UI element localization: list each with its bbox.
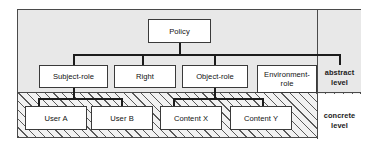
edge-policy-to-environment-role: [339, 54, 341, 65]
abstract-level-label: abstract level: [318, 68, 361, 87]
node-user-b[interactable]: User B: [91, 106, 153, 130]
edge-policy-to-right: [142, 54, 144, 65]
concrete-level-label-line1: concrete: [324, 111, 356, 120]
diagram-frame: abstract level concrete level Policy Sub…: [17, 9, 361, 138]
edge-policy-to-subject-role: [73, 54, 75, 65]
node-content-y-label: Content Y: [231, 114, 291, 123]
node-user-a-label: User A: [26, 114, 86, 123]
node-user-a[interactable]: User A: [25, 106, 87, 130]
node-right[interactable]: Right: [114, 65, 176, 88]
edge-policy-to-object-role: [214, 54, 216, 65]
node-subject-role-label: Subject-role: [40, 72, 107, 81]
abstract-level-label-line1: abstract: [325, 68, 355, 77]
node-content-x[interactable]: Content X: [160, 106, 222, 130]
node-right-label: Right: [115, 72, 175, 81]
edge-subject-role-to-user-b: [121, 98, 123, 106]
edge-subject-role-bus: [38, 98, 122, 100]
node-user-b-label: User B: [92, 114, 152, 123]
node-environment-role-label-line1: Environment-: [258, 70, 316, 79]
node-object-role-label: Object-role: [183, 72, 247, 81]
policy-hierarchy-diagram: abstract level concrete level Policy Sub…: [0, 0, 380, 148]
edge-object-role-to-content-x: [173, 98, 175, 106]
edge-subject-role-to-user-a: [38, 98, 40, 106]
abstract-level-label-line2: level: [331, 78, 348, 87]
concrete-level-label: concrete level: [318, 111, 361, 130]
node-subject-role[interactable]: Subject-role: [39, 65, 108, 88]
node-environment-role-label: Environment- role: [258, 70, 316, 88]
edge-object-role-to-content-y: [262, 98, 264, 106]
node-environment-role[interactable]: Environment- role: [257, 65, 317, 93]
node-object-role[interactable]: Object-role: [182, 65, 248, 88]
concrete-level-label-line2: level: [331, 121, 348, 130]
edge-policy-bus: [73, 54, 341, 56]
node-content-y[interactable]: Content Y: [230, 106, 292, 130]
node-content-x-label: Content X: [161, 114, 221, 123]
node-environment-role-label-line2: role: [258, 79, 316, 88]
node-policy[interactable]: Policy: [148, 19, 211, 43]
node-policy-label: Policy: [149, 27, 210, 36]
edge-object-role-bus: [173, 98, 263, 100]
